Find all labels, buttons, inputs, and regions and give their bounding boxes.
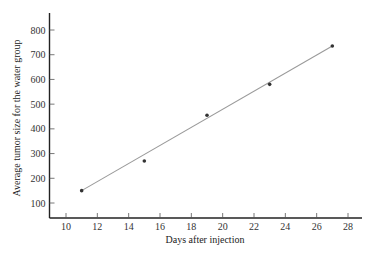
y-axis-label: Average tumor size for the water group — [11, 40, 22, 197]
x-tick-label: 26 — [312, 221, 322, 232]
y-tick-label: 400 — [31, 123, 46, 134]
data-point — [205, 113, 209, 117]
x-tick-label: 16 — [155, 221, 165, 232]
x-tick-label: 10 — [61, 221, 71, 232]
data-point — [331, 44, 335, 48]
data-point — [80, 189, 84, 193]
x-tick-label: 20 — [218, 221, 228, 232]
x-tick-label: 12 — [92, 221, 102, 232]
y-tick-label: 500 — [31, 99, 46, 110]
y-axis-ticks: 100200300400500600700800 — [31, 25, 55, 209]
x-tick-label: 22 — [249, 221, 259, 232]
x-tick-label: 14 — [124, 221, 134, 232]
fit-line — [82, 46, 333, 191]
y-tick-label: 200 — [31, 173, 46, 184]
scatter-chart: 100200300400500600700800 101214161820222… — [0, 0, 371, 255]
y-tick-label: 300 — [31, 148, 46, 159]
y-tick-label: 700 — [31, 49, 46, 60]
y-tick-label: 600 — [31, 74, 46, 85]
x-axis-ticks: 10121416182022242628 — [61, 213, 353, 232]
fitted-line — [82, 46, 333, 191]
x-tick-label: 18 — [186, 221, 196, 232]
x-tick-label: 24 — [280, 221, 290, 232]
x-axis-label: Days after injection — [166, 234, 245, 245]
y-tick-label: 100 — [31, 198, 46, 209]
data-point — [268, 83, 272, 87]
x-tick-label: 28 — [343, 221, 353, 232]
data-point — [143, 159, 147, 163]
y-tick-label: 800 — [31, 25, 46, 36]
